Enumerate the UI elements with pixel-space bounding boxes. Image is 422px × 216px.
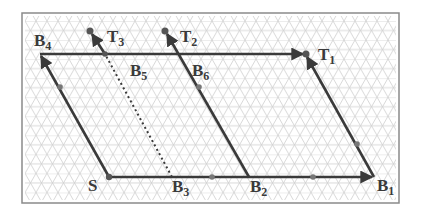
midpoint-bottom-1 [209,174,215,180]
point-b5 [102,51,108,57]
point-t1 [303,51,310,58]
midpoint-bottom-2 [310,174,316,180]
midpoint-left-edge [57,84,63,90]
label-s: S [88,176,97,195]
point-s [106,174,112,180]
parallelogram-path-diagram: S B1 B2 B3 B4 B5 B6 T1 T2 T3 [0,0,422,216]
midpoint-right-edge [354,141,360,147]
midpoint-b2-edge [196,84,202,90]
point-t3 [87,28,94,35]
point-t2 [162,28,169,35]
